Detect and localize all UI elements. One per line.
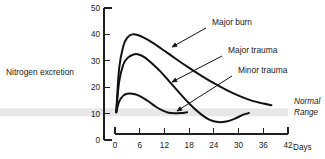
x-tick-label: 0	[113, 141, 118, 150]
y-axis-line	[104, 8, 112, 140]
y-tick-label: 10	[91, 110, 101, 119]
normal-range-label-line2: Range	[294, 108, 319, 117]
annotation-arrowhead	[172, 43, 177, 47]
x-axis-tick-labels: 06121824303642	[113, 141, 293, 150]
annotation-leader	[172, 28, 206, 47]
y-axis-label: Nitrogen excretion	[6, 67, 74, 77]
x-tick-label: 42	[283, 141, 293, 150]
x-tick-label: 24	[209, 141, 219, 150]
x-axis-ticks	[115, 128, 288, 134]
annotation-arrowhead	[172, 78, 177, 82]
annotation-label-minor-trauma: Minor trauma	[238, 65, 288, 75]
annotation-label-major-burn: Major burn	[212, 17, 252, 27]
y-tick-label: 50	[91, 4, 101, 13]
x-tick-label: 6	[137, 141, 142, 150]
y-axis-ticks	[104, 8, 110, 140]
chart-canvas: 01020304050 06121824303642 Major burnMaj…	[0, 0, 325, 159]
x-tick-label: 18	[185, 141, 195, 150]
annotation-label-major-trauma: Major trauma	[228, 45, 278, 55]
x-tick-label: 30	[234, 141, 244, 150]
annotation-leader-lines	[172, 28, 232, 111]
y-tick-label: 20	[91, 83, 101, 92]
y-axis-tick-labels: 01020304050	[91, 4, 101, 145]
normal-range-label-line1: Normal	[294, 97, 321, 106]
x-axis-line	[115, 127, 288, 134]
annotation-labels: Major burnMajor traumaMinor trauma	[212, 17, 288, 75]
annotation-leader	[172, 56, 222, 82]
annotation-leader	[177, 76, 232, 111]
x-axis-label: Days	[293, 143, 312, 152]
y-tick-label: 30	[91, 57, 101, 66]
y-tick-label: 0	[95, 136, 100, 145]
nitrogen-excretion-chart: 01020304050 06121824303642 Major burnMaj…	[0, 0, 325, 159]
x-tick-label: 12	[160, 141, 170, 150]
x-tick-label: 36	[259, 141, 269, 150]
y-tick-label: 40	[91, 30, 101, 39]
